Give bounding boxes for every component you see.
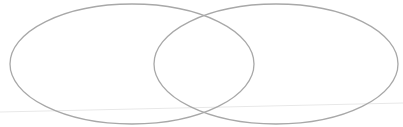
guide-line: [0, 103, 403, 112]
venn-diagram: [0, 0, 403, 127]
left-set-ellipse: [10, 4, 254, 124]
